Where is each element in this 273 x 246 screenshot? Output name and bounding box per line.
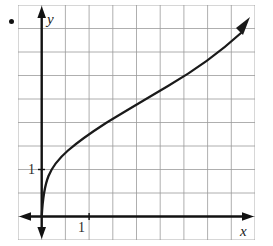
y-axis-tick-label-1: 1: [28, 163, 35, 177]
x-axis-label: x: [240, 224, 247, 239]
coordinate-plot: [0, 0, 273, 246]
function-curve: [42, 17, 250, 217]
y-axis-label: y: [47, 12, 54, 27]
grid-lines: [18, 5, 255, 240]
x-axis-tick-label-1: 1: [78, 221, 85, 235]
graph-figure: y x 1 1: [0, 0, 273, 246]
